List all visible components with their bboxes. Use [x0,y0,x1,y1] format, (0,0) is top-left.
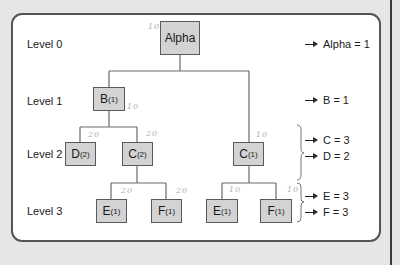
result-f: F = 3 [305,206,348,218]
mark-b: 10 [127,102,139,111]
result-b: B = 1 [305,94,349,106]
node-f-left-count: (1) [165,207,175,216]
mark-c-right: 10 [256,130,268,139]
result-e: E = 3 [305,190,349,202]
node-alpha: Alpha [160,21,200,55]
level-label-3: Level 3 [27,205,62,217]
node-c-right: C(1) [233,142,264,166]
arrow-right-icon [305,40,319,48]
mark-f-right: 10 [287,185,299,194]
node-b-count: (1) [108,95,118,104]
mark-d: 20 [88,130,100,139]
node-alpha-label: Alpha [165,31,196,45]
node-e-left: E(1) [96,199,127,223]
mark-e-left: 20 [121,186,133,195]
node-f-left: F(1) [151,199,182,223]
node-e-right-count: (1) [221,207,231,216]
arrow-right-icon [305,136,319,144]
mark-c-left: 20 [146,129,158,138]
result-alpha: Alpha = 1 [305,38,370,50]
node-e-left-label: E [103,204,111,218]
node-e-right: E(1) [206,199,238,223]
node-c-left: C(2) [122,142,153,166]
result-d-text: D = 2 [323,150,350,162]
mark-alpha: 10 [148,22,160,31]
node-c-left-label: C [128,147,137,161]
level-label-2: Level 2 [27,148,62,160]
arrow-right-icon [305,192,319,200]
mark-f-left: 20 [176,186,188,195]
node-d: D(2) [65,142,96,166]
node-d-count: (2) [80,150,90,159]
brace-icon [297,125,304,222]
arrow-right-icon [305,152,319,160]
node-f-right: F(1) [260,199,292,223]
node-c-right-count: (1) [248,150,258,159]
node-d-label: D [71,147,80,161]
result-b-text: B = 1 [323,94,349,106]
arrow-right-icon [305,208,319,216]
node-c-right-label: C [239,147,248,161]
arrow-right-icon [305,96,319,104]
result-c-text: C = 3 [323,134,350,146]
node-e-left-count: (1) [111,207,121,216]
node-f-right-count: (1) [275,207,285,216]
node-f-right-label: F [267,204,274,218]
node-b: B(1) [93,87,125,111]
result-e-text: E = 3 [323,190,349,202]
node-f-left-label: F [158,204,165,218]
result-alpha-text: Alpha = 1 [323,38,370,50]
mark-e-right: 10 [229,185,241,194]
level-label-1: Level 1 [27,95,62,107]
level-label-0: Level 0 [27,38,62,50]
node-c-left-count: (2) [137,150,147,159]
node-b-label: B [100,92,108,106]
result-d: D = 2 [305,150,350,162]
result-c: C = 3 [305,134,350,146]
node-e-right-label: E [213,204,221,218]
result-f-text: F = 3 [323,206,348,218]
